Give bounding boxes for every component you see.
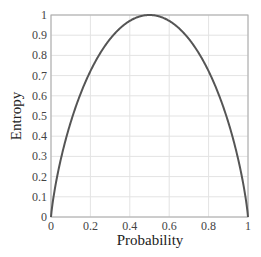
- x-tick-label: 0.8: [201, 219, 216, 233]
- y-tick-label: 0.7: [32, 69, 47, 83]
- y-tick-labels: 00.10.20.30.40.50.60.70.80.91: [32, 8, 47, 224]
- x-tick-label: 0.2: [83, 219, 98, 233]
- x-axis-label: Probability: [117, 232, 184, 248]
- x-tick-label: 0.6: [162, 219, 177, 233]
- grid-lines: [51, 15, 248, 217]
- x-tick-label: 0.4: [122, 219, 137, 233]
- y-tick-label: 0.4: [32, 129, 47, 143]
- y-tick-label: 0.2: [32, 170, 47, 184]
- y-tick-label: 0.9: [32, 28, 47, 42]
- y-tick-label: 0.3: [32, 149, 47, 163]
- y-axis-label: Entropy: [8, 91, 24, 140]
- x-tick-labels: 00.20.40.60.81: [48, 219, 251, 233]
- y-tick-label: 0.8: [32, 48, 47, 62]
- x-tick-label: 0: [48, 219, 54, 233]
- y-tick-label: 0.1: [32, 190, 47, 204]
- y-tick-label: 0: [41, 210, 47, 224]
- y-tick-label: 0.6: [32, 89, 47, 103]
- entropy-chart: 00.10.20.30.40.50.60.70.80.91 00.20.40.6…: [0, 0, 261, 257]
- x-tick-label: 1: [245, 219, 251, 233]
- y-tick-label: 1: [41, 8, 47, 22]
- y-tick-label: 0.5: [32, 109, 47, 123]
